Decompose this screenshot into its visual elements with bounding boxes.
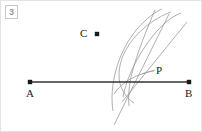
geometry-figure: 3 A B C P	[0, 0, 202, 132]
point-c-dot	[95, 32, 99, 36]
point-label-p: P	[156, 65, 162, 76]
construction-arc-right	[123, 13, 181, 97]
p-leader-line	[142, 70, 155, 74]
point-label-c: C	[80, 28, 87, 39]
construction-drawing	[1, 1, 202, 132]
point-label-b: B	[185, 88, 192, 99]
point-label-a: A	[26, 88, 34, 99]
point-b-dot	[187, 80, 191, 84]
point-a-dot	[28, 80, 32, 84]
